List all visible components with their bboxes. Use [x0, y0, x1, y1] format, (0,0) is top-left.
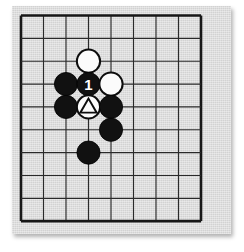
- black-stone-right-mid[interactable]: [99, 95, 122, 118]
- black-stone-move-1[interactable]: 1: [77, 72, 100, 95]
- black-stone-left-lower[interactable]: [54, 95, 77, 118]
- black-stone-body: [77, 141, 100, 164]
- black-stone-body: [54, 72, 77, 95]
- white-stone-body: [99, 72, 122, 95]
- board-grid-and-stones[interactable]: 1: [0, 0, 244, 252]
- black-stone-left-upper[interactable]: [54, 72, 77, 95]
- black-stone-body: [54, 95, 77, 118]
- black-stone-right-low[interactable]: [99, 118, 122, 141]
- go-diagram: 1: [0, 0, 244, 252]
- stone-move-number-label: 1: [84, 76, 92, 93]
- white-stone-body: [77, 50, 100, 73]
- black-stone-body: [99, 118, 122, 141]
- white-stone-top[interactable]: [77, 50, 100, 73]
- black-stone-body: [99, 95, 122, 118]
- white-stone-marked[interactable]: [77, 95, 100, 118]
- white-stone-right[interactable]: [99, 72, 122, 95]
- stones-layer[interactable]: 1: [54, 50, 122, 165]
- black-stone-bottom[interactable]: [77, 141, 100, 164]
